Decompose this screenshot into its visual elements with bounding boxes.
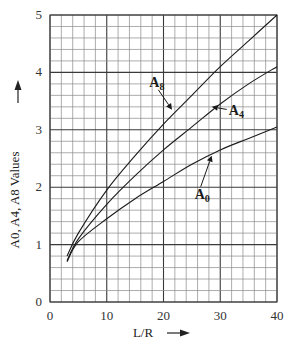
right-arrow-icon [167, 330, 190, 337]
chart: 010203040 012345 A8A4A0 L/R A0, A4, A8 V… [0, 0, 293, 349]
series-line-a4 [67, 67, 277, 261]
y-tick-label: 0 [36, 294, 43, 309]
x-axis-ticks: 010203040 [47, 308, 284, 323]
curve-label-a8: A8 [149, 75, 164, 92]
y-axis-label: A0, A4, A8 Values [7, 152, 22, 249]
y-tick-label: 4 [36, 64, 43, 79]
curve-label-a0: A0 [195, 187, 210, 204]
x-tick-label: 20 [157, 308, 170, 323]
y-tick-label: 5 [36, 7, 43, 22]
annotation-a8: A8 [149, 75, 172, 110]
grid [50, 15, 277, 302]
arrow-icon [201, 161, 210, 186]
up-arrow-icon [15, 80, 22, 103]
y-tick-label: 3 [36, 122, 43, 137]
series-line-a8 [67, 15, 277, 256]
x-tick-label: 30 [214, 308, 227, 323]
series-group [67, 15, 277, 262]
y-tick-label: 2 [36, 179, 43, 194]
x-axis-label: L/R [133, 325, 154, 340]
y-axis-ticks: 012345 [36, 7, 43, 309]
annotation-a4: A4 [212, 103, 244, 120]
series-line-a0 [67, 127, 277, 262]
x-tick-label: 0 [47, 308, 54, 323]
curve-label-a4: A4 [229, 103, 244, 120]
x-tick-label: 10 [100, 308, 113, 323]
x-tick-label: 40 [271, 308, 284, 323]
y-tick-label: 1 [36, 237, 43, 252]
arrow-icon [218, 108, 227, 110]
arrow-head-icon [166, 103, 172, 110]
